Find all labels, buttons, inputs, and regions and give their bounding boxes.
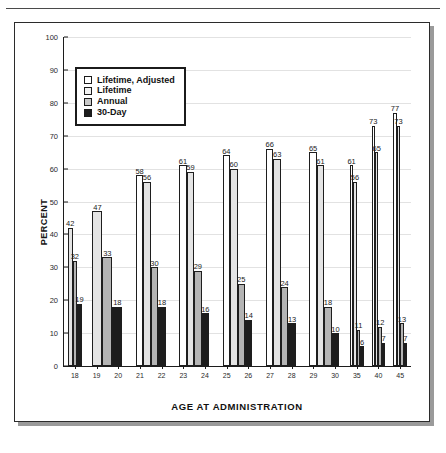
- x-tick-label: 21: [136, 372, 144, 379]
- y-tick-label: 40: [50, 230, 64, 239]
- x-tick-label: 23: [179, 372, 187, 379]
- x-tick-label: 40: [375, 372, 383, 379]
- bar-lifetime-adjusted[interactable]: 65: [309, 152, 316, 366]
- bar-annual[interactable]: 24: [281, 287, 288, 366]
- bar-group: 646025142526: [216, 37, 259, 366]
- bar-value-label: 30: [150, 260, 158, 268]
- x-tick-label: 27: [266, 372, 274, 379]
- bar-value-label: 24: [280, 280, 288, 288]
- x-tick-mark: [140, 366, 141, 369]
- bar-value-label: 59: [186, 164, 194, 172]
- chart-figure-frame: PERCENT 0102030405060708090100 423219184…: [14, 22, 430, 422]
- y-tick-label: 100: [45, 33, 64, 42]
- bar-group: 736512740: [368, 37, 390, 366]
- bar-value-label: 11: [355, 322, 363, 330]
- bar-lifetime[interactable]: 63: [273, 159, 280, 366]
- bar-lifetime[interactable]: 61: [317, 165, 324, 366]
- bar-value-label: 32: [71, 253, 79, 261]
- legend-label: Annual: [97, 97, 128, 106]
- bar-value-label: 19: [75, 296, 83, 304]
- bar-annual[interactable]: 30: [151, 267, 158, 366]
- bar-30-day[interactable]: 14: [245, 320, 252, 366]
- bar-value-label: 7: [403, 335, 407, 343]
- bar-value-label: 65: [373, 145, 381, 153]
- bar-group: 615611635: [346, 37, 368, 366]
- x-tick-label: 35: [353, 372, 361, 379]
- bar-value-label: 60: [230, 161, 238, 169]
- x-tick-mark: [248, 366, 249, 369]
- bar-value-label: 10: [331, 326, 339, 334]
- x-tick-mark: [162, 366, 163, 369]
- bar-value-label: 65: [309, 145, 317, 153]
- bar-30-day[interactable]: 13: [288, 323, 295, 366]
- bar-lifetime[interactable]: 56: [143, 182, 150, 366]
- x-tick-mark: [227, 366, 228, 369]
- bar-30-day[interactable]: 6: [360, 346, 363, 366]
- bar-30-day[interactable]: 18: [112, 307, 122, 366]
- x-tick-mark: [118, 366, 119, 369]
- x-tick-mark: [97, 366, 98, 369]
- bar-30-day[interactable]: 7: [404, 343, 407, 366]
- legend-swatch-lifetime: [84, 87, 92, 95]
- bar-annual[interactable]: 29: [194, 271, 201, 366]
- bar-30-day[interactable]: 18: [158, 307, 165, 366]
- x-tick-label: 26: [244, 372, 252, 379]
- y-tick-label: 20: [50, 296, 64, 305]
- x-tick-label: 20: [114, 372, 122, 379]
- y-tick-label: 0: [54, 362, 64, 371]
- bar-value-label: 14: [245, 312, 253, 320]
- x-tick-mark: [335, 366, 336, 369]
- bar-value-label: 16: [201, 306, 209, 314]
- bar-value-label: 42: [66, 220, 74, 228]
- bar-group: 666324132728: [259, 37, 302, 366]
- bar-value-label: 73: [369, 118, 377, 126]
- legend-swatch-annual: [84, 98, 92, 106]
- bar-value-label: 33: [103, 250, 111, 258]
- bar-30-day[interactable]: 7: [382, 343, 385, 366]
- bar-30-day[interactable]: 16: [202, 313, 209, 366]
- bar-lifetime-adjusted[interactable]: 64: [223, 155, 230, 366]
- bar-value-label: 29: [194, 263, 202, 271]
- bar-annual[interactable]: 33: [102, 257, 112, 366]
- bar-value-label: 66: [266, 141, 274, 149]
- bar-value-label: 18: [158, 299, 166, 307]
- bar-annual[interactable]: 18: [324, 307, 331, 366]
- legend-label: 30-Day: [97, 108, 127, 117]
- x-tick-mark: [400, 366, 401, 369]
- bar-30-day[interactable]: 19: [77, 304, 82, 367]
- bar-value-label: 77: [391, 105, 399, 113]
- x-tick-mark: [292, 366, 293, 369]
- x-tick-mark: [183, 366, 184, 369]
- legend-swatch-30-day: [84, 109, 92, 117]
- top-divider-rule: [6, 8, 440, 9]
- bar-group: 656118102930: [303, 37, 346, 366]
- bar-value-label: 64: [222, 148, 230, 156]
- bar-value-label: 13: [398, 316, 406, 324]
- bar-value-label: 63: [273, 151, 281, 159]
- bar-group: 777313745: [389, 37, 411, 366]
- bar-value-label: 56: [351, 174, 359, 182]
- x-tick-mark: [378, 366, 379, 369]
- legend-swatch-lifetime-adjusted: [84, 76, 92, 84]
- bar-lifetime-adjusted[interactable]: 61: [179, 165, 186, 366]
- legend-item: Annual: [84, 97, 175, 106]
- bar-value-label: 56: [143, 174, 151, 182]
- bar-annual[interactable]: 25: [238, 284, 245, 366]
- bar-value-label: 61: [316, 158, 324, 166]
- x-tick-mark: [270, 366, 271, 369]
- legend-label: Lifetime, Adjusted: [97, 76, 175, 85]
- legend-label: Lifetime: [97, 86, 132, 95]
- y-tick-label: 10: [50, 329, 64, 338]
- y-tick-label: 80: [50, 98, 64, 107]
- y-tick-label: 90: [50, 65, 64, 74]
- bar-value-label: 12: [376, 319, 384, 327]
- x-tick-mark: [357, 366, 358, 369]
- bar-30-day[interactable]: 10: [332, 333, 339, 366]
- bar-lifetime[interactable]: 47: [92, 211, 102, 366]
- bar-lifetime-adjusted[interactable]: 58: [136, 175, 143, 366]
- bar-lifetime-adjusted[interactable]: 66: [266, 149, 273, 366]
- bar-value-label: 61: [347, 158, 355, 166]
- x-axis-title: AGE AT ADMINISTRATION: [63, 401, 411, 412]
- bar-lifetime[interactable]: 60: [230, 169, 237, 366]
- y-tick-label: 60: [50, 164, 64, 173]
